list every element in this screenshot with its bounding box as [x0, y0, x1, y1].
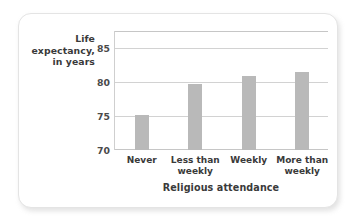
plot-top-rule: [115, 31, 328, 32]
y-tick-label-75: 75: [97, 111, 110, 122]
x-category-label-line: weekly: [271, 166, 333, 177]
y-axis-title-line-2: expectancy,: [23, 45, 95, 57]
figure-card: Life expectancy, in years 70758085NeverL…: [18, 13, 338, 208]
y-tick-label-80: 80: [97, 77, 110, 88]
y-tick-label-70: 70: [97, 145, 110, 156]
bar: [135, 115, 149, 150]
x-category-label-line: weekly: [164, 166, 226, 177]
y-tick-label-85: 85: [97, 43, 110, 54]
y-axis-title-line-3: in years: [23, 56, 95, 68]
bar: [188, 84, 202, 150]
gridline-85: [115, 48, 328, 49]
bar: [242, 76, 256, 150]
plot-inner: 70758085NeverLess thanweeklyWeeklyMore t…: [115, 31, 328, 150]
x-axis-title: Religious attendance: [114, 182, 328, 193]
y-axis-title: Life expectancy, in years: [23, 33, 95, 68]
plot-area: 70758085NeverLess thanweeklyWeeklyMore t…: [114, 31, 328, 150]
x-category-label-line: More than: [271, 155, 333, 166]
x-category-label: More thanweekly: [271, 155, 333, 176]
y-axis-title-line-1: Life: [23, 33, 95, 45]
bar: [295, 72, 309, 150]
